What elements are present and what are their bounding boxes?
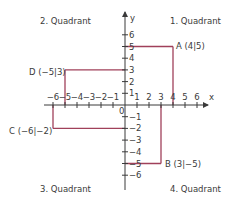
x-tick-label: −1: [107, 92, 120, 102]
x-tick-label: 1: [134, 92, 139, 102]
quadrant-1-label: 1. Quadrant: [170, 16, 222, 26]
y-tick-label: 6: [129, 30, 134, 40]
y-tick-label: 1: [129, 88, 134, 98]
quadrant-3-label: 3. Quadrant: [40, 184, 92, 194]
y-tick-label: 4: [129, 53, 134, 63]
point-d-label: D (−5|3): [29, 67, 66, 77]
y-tick-label: 5: [129, 42, 134, 52]
origin-label: 0: [119, 106, 124, 116]
y-tick-label: −5: [129, 159, 142, 169]
quadrant-4-label: 4. Quadrant: [170, 184, 222, 194]
x-tick-label: 3: [158, 92, 163, 102]
x-tick-label: −6: [47, 92, 60, 102]
point-b-label: B (3|−5): [165, 159, 201, 169]
y-tick-label: −6: [129, 170, 142, 180]
point-a-label: A (4|5): [176, 41, 205, 51]
x-tick-label: 2: [146, 92, 151, 102]
x-tick-label: −4: [71, 92, 84, 102]
y-tick-label: −3: [129, 135, 142, 145]
y-axis-label: y: [130, 13, 135, 23]
x-tick-label: −5: [59, 92, 72, 102]
x-tick-label: 5: [182, 92, 187, 102]
x-tick-label: 6: [194, 92, 199, 102]
x-tick-label: −2: [95, 92, 108, 102]
y-tick-label: −1: [129, 112, 142, 122]
x-axis-label: x: [209, 92, 214, 102]
y-tick-label: 2: [129, 77, 134, 87]
y-tick-label: −2: [129, 123, 142, 133]
quadrant-2-label: 2. Quadrant: [40, 16, 92, 26]
y-tick-label: −4: [129, 147, 142, 157]
x-tick-label: −3: [83, 92, 96, 102]
x-tick-label: 4: [170, 92, 175, 102]
coordinate-diagram: −6−5−4−3−2−1123456 654321−1−2−3−4−5−6 x …: [0, 0, 227, 210]
point-c-label: C (−6|−2): [9, 126, 52, 136]
y-tick-label: 3: [129, 65, 134, 75]
